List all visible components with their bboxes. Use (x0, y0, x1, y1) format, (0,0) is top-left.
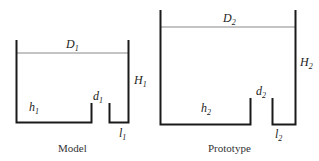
prototype-caption: Prototype (208, 142, 251, 154)
model-label-D: D1 (65, 37, 79, 53)
model-label-h: h1 (29, 100, 39, 116)
prototype-tank: D2 H2 h2 d2 l2 Prototype (160, 10, 313, 154)
prototype-label-D: D2 (222, 11, 236, 27)
model-tank: D1 H1 h1 d1 l1 Model (16, 37, 147, 154)
model-caption: Model (58, 142, 87, 154)
model-tank-wall-right (110, 40, 129, 123)
model-prototype-diagram: D1 H1 h1 d1 l1 Model D2 H2 h2 d2 l2 Prot… (0, 0, 319, 161)
prototype-label-h: h2 (201, 101, 211, 117)
model-label-H: H1 (133, 73, 147, 89)
model-tank-wall-left (17, 40, 92, 123)
model-label-l: l1 (119, 126, 126, 142)
prototype-label-l: l2 (275, 127, 282, 143)
prototype-label-H: H2 (299, 55, 313, 71)
model-label-d: d1 (93, 89, 103, 105)
prototype-label-d: d2 (256, 84, 266, 100)
